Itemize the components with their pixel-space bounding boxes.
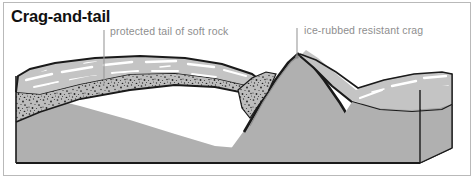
callout-label-resistant-crag: ice-rubbed resistant crag [304, 24, 423, 36]
crag-and-tail-figure: Crag-and-tail protected tail of soft roc… [0, 0, 476, 180]
crag-leader-dot [295, 55, 299, 59]
callout-label-protected-tail: protected tail of soft rock [110, 25, 228, 37]
page-title: Crag-and-tail [11, 7, 110, 26]
